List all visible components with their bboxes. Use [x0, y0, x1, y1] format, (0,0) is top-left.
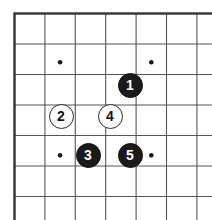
stone-black-3[interactable]: 3	[76, 143, 101, 168]
star-point	[149, 153, 154, 158]
stone-move-number: 5	[126, 148, 134, 162]
stone-move-number: 1	[126, 78, 134, 92]
stone-black-5[interactable]: 5	[118, 143, 143, 168]
stone-white-4[interactable]: 4	[98, 104, 123, 129]
stone-black-1[interactable]: 1	[118, 73, 143, 98]
stone-move-number: 2	[57, 109, 65, 123]
stone-white-2[interactable]: 2	[49, 104, 74, 129]
stone-move-number: 3	[84, 148, 92, 162]
stone-move-number: 4	[106, 109, 114, 123]
star-point	[58, 60, 63, 65]
go-diagram: 12345	[0, 0, 212, 220]
star-point	[149, 60, 154, 65]
star-point	[58, 153, 63, 158]
